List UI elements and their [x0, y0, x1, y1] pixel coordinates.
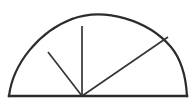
geometry-figure: [0, 0, 195, 109]
figure-canvas: [0, 0, 195, 109]
figure-background: [0, 0, 195, 109]
